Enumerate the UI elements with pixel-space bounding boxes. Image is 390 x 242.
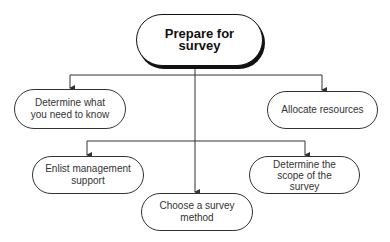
node-label: Determine what you need to know xyxy=(31,97,109,121)
node-determine-scope: Determine the scope of the survey xyxy=(249,156,360,194)
node-label: Determine the scope of the survey xyxy=(273,159,336,192)
node-determine-what-you-need-to-know: Determine what you need to know xyxy=(14,89,126,129)
node-allocate-resources: Allocate resources xyxy=(267,91,378,129)
node-label: Allocate resources xyxy=(281,104,363,116)
node-label: Choose a survey method xyxy=(159,200,234,224)
node-enlist-management-support: Enlist management support xyxy=(32,156,144,194)
node-label: Prepare for survey xyxy=(143,28,256,52)
node-choose-survey-method: Choose a survey method xyxy=(141,193,253,231)
node-prepare-for-survey: Prepare for survey xyxy=(136,14,263,66)
node-label: Enlist management support xyxy=(45,163,131,187)
